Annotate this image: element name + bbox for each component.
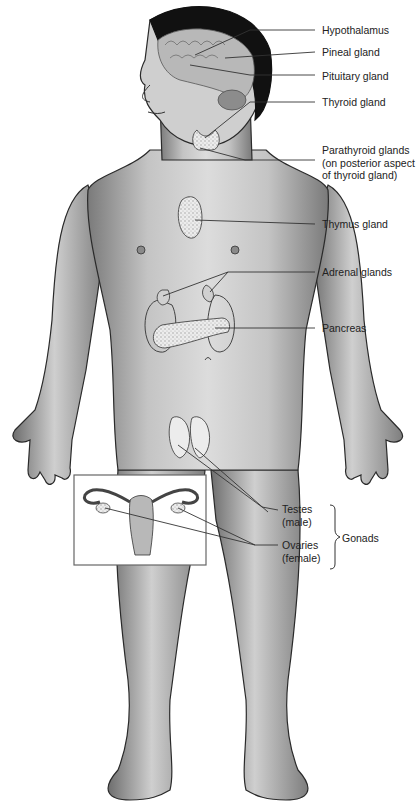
right-nipple xyxy=(231,246,239,254)
endocrine-diagram xyxy=(0,0,418,807)
torso xyxy=(88,150,329,470)
cerebellum xyxy=(218,90,246,110)
label-parathyroid-glands: Parathyroid glands (on posterior aspect … xyxy=(322,144,415,182)
uterus xyxy=(129,496,153,556)
left-adrenal-gland xyxy=(157,290,169,305)
label-pancreas: Pancreas xyxy=(322,322,366,334)
label-ovaries: Ovaries (female) xyxy=(282,539,321,564)
gonads-brace xyxy=(330,505,340,569)
label-thymus-gland: Thymus gland xyxy=(322,218,388,230)
label-testes: Testes (male) xyxy=(282,503,312,528)
inset-female-reproductive xyxy=(74,475,206,565)
label-thyroid-gland: Thyroid gland xyxy=(322,96,386,108)
label-gonads: Gonads xyxy=(342,532,379,544)
label-pituitary-gland: Pituitary gland xyxy=(322,70,389,82)
label-hypothalamus: Hypothalamus xyxy=(322,24,389,36)
label-pineal-gland: Pineal gland xyxy=(322,46,380,58)
body-illustration xyxy=(13,7,403,800)
left-ovary xyxy=(96,503,110,513)
left-nipple xyxy=(137,246,145,254)
label-adrenal-glands: Adrenal glands xyxy=(322,266,392,278)
